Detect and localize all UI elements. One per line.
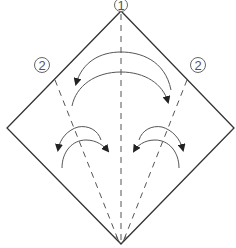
step-2-right-label: 2 [191, 58, 206, 74]
small-arrow-left-outer [58, 127, 101, 150]
svg-text:1: 1 [117, 0, 124, 13]
svg-text:2: 2 [194, 58, 201, 73]
step-2-left-label: 2 [35, 58, 50, 74]
small-arrow-left-inner [62, 140, 108, 168]
left-valley-fold-line [55, 80, 119, 242]
svg-text:2: 2 [38, 58, 45, 73]
origami-diagram: 1 2 2 [0, 0, 236, 248]
step-1-label: 1 [115, 0, 128, 13]
small-arrow-right-inner [134, 140, 179, 168]
right-valley-fold-line [123, 80, 187, 242]
large-arrow-to-right [72, 72, 168, 106]
